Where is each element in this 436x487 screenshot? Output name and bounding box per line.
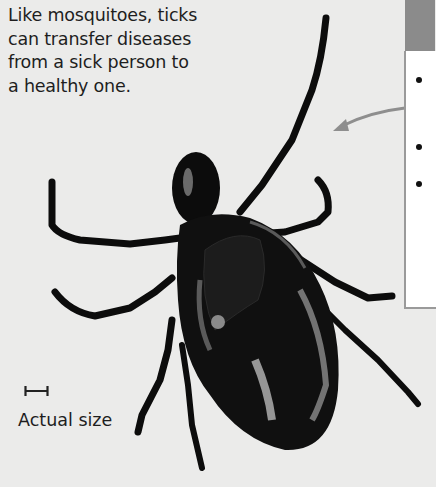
scale-bar-icon: [24, 385, 49, 397]
bullet-icon: [416, 77, 422, 83]
bullet-icon: [416, 181, 422, 187]
sidebar-header: [405, 0, 435, 51]
bullet-icon: [416, 144, 422, 150]
pointer-arrow-icon: [333, 108, 405, 131]
scale-label: Actual size: [18, 410, 112, 430]
sidebar-box: [404, 51, 436, 309]
